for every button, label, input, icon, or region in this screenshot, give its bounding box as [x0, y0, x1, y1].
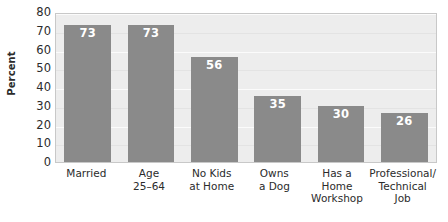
bar[interactable]: 73: [64, 25, 111, 162]
bar-value-label: 56: [191, 59, 238, 71]
y-tick-label: 20: [20, 120, 51, 132]
bar-value-label: 30: [318, 108, 365, 120]
bar-slot: 35: [246, 14, 309, 162]
x-axis-category-labels: MarriedAge25–64No Kidsat HomeOwnsa DogHa…: [55, 167, 437, 205]
bar-value-label: 26: [381, 115, 428, 127]
bar[interactable]: 35: [254, 96, 301, 162]
x-axis-label: Age25–64: [118, 167, 181, 205]
x-axis-label: No Kidsat Home: [180, 167, 243, 205]
y-tick-label: 50: [20, 64, 51, 76]
y-tick-label: 60: [20, 45, 51, 57]
bar-slot: 73: [119, 14, 182, 162]
y-tick-label: 80: [20, 7, 51, 19]
plot-area: 737356353026: [55, 13, 437, 163]
x-axis-label: Professional/TechnicalJob: [368, 167, 437, 205]
bar-slot: 30: [309, 14, 372, 162]
x-axis-label: Ownsa Dog: [243, 167, 306, 205]
bar-slot: 26: [373, 14, 436, 162]
y-tick-label: 30: [20, 101, 51, 113]
bar-chart: Percent 80706050403020100 737356353026 M…: [0, 0, 448, 222]
y-tick-label: 70: [20, 26, 51, 38]
bars-container: 737356353026: [56, 14, 436, 162]
bar[interactable]: 73: [128, 25, 175, 162]
bar[interactable]: 30: [318, 106, 365, 162]
bar-value-label: 73: [128, 27, 175, 39]
bar[interactable]: 26: [381, 113, 428, 162]
bar[interactable]: 56: [191, 57, 238, 162]
y-axis-tick-labels: 80706050403020100: [20, 13, 51, 163]
x-axis-label: Has aHomeWorkshop: [306, 167, 369, 205]
x-axis-label: Married: [55, 167, 118, 205]
y-tick-label: 0: [20, 157, 51, 169]
bar-value-label: 35: [254, 98, 301, 110]
y-tick-label: 40: [20, 82, 51, 94]
bar-value-label: 73: [64, 27, 111, 39]
bar-slot: 73: [56, 14, 119, 162]
y-tick-label: 10: [20, 139, 51, 151]
bar-slot: 56: [183, 14, 246, 162]
y-axis-title: Percent: [6, 44, 17, 104]
